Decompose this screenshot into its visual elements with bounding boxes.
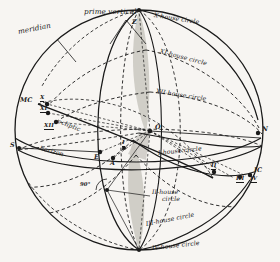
label-east: E bbox=[94, 154, 99, 161]
cusp-i: I bbox=[122, 140, 125, 147]
sphere-drawing bbox=[0, 0, 280, 262]
label-zenith-z: Z bbox=[132, 19, 137, 26]
point-ii bbox=[212, 170, 216, 174]
point-zenith bbox=[137, 8, 141, 12]
label-prime-vertical: prime vertical bbox=[84, 8, 137, 16]
point-n bbox=[256, 131, 260, 135]
cusp-xii: XII bbox=[44, 123, 54, 130]
ray-o-to-n-solid bbox=[150, 131, 261, 138]
leader-prime-vertical-2 bbox=[110, 20, 126, 44]
cusp-iv: IV bbox=[250, 176, 257, 183]
point-ninety bbox=[105, 188, 109, 192]
celestial-sphere-figure: prime vertical meridian horizon ecliptic… bbox=[0, 0, 280, 262]
house-circle-xii-left bbox=[56, 92, 150, 122]
label-house-circle-ii-line1: II-house bbox=[152, 188, 178, 195]
label-house-circle-ii: II-house circle bbox=[152, 189, 180, 202]
label-ic: IC bbox=[254, 167, 262, 174]
cusp-x: X bbox=[40, 95, 44, 102]
cusp-xi: XI bbox=[40, 106, 47, 113]
label-center-o: O bbox=[155, 124, 161, 131]
label-mc: MC bbox=[20, 97, 32, 104]
label-south: S bbox=[10, 142, 15, 149]
label-house-circle-ii-line2: circle bbox=[162, 196, 180, 203]
house-circle-iii-left bbox=[20, 155, 136, 215]
point-o bbox=[148, 129, 152, 133]
right-angle-arc bbox=[96, 179, 107, 190]
point-s bbox=[17, 146, 21, 150]
label-north: N bbox=[262, 126, 268, 133]
cusp-ii: II bbox=[211, 163, 216, 170]
label-ascendant-a: A bbox=[110, 160, 115, 167]
point-nadir bbox=[137, 248, 141, 252]
cusp-iii: III bbox=[236, 176, 244, 183]
shaded-lune-upper bbox=[133, 10, 149, 133]
label-right-angle: 90° bbox=[80, 182, 91, 188]
house-circle-xi-left bbox=[48, 50, 146, 106]
house-circle-x-left bbox=[42, 10, 139, 86]
house-circle-i-left bbox=[18, 133, 139, 150]
leader-meridian bbox=[56, 38, 76, 62]
